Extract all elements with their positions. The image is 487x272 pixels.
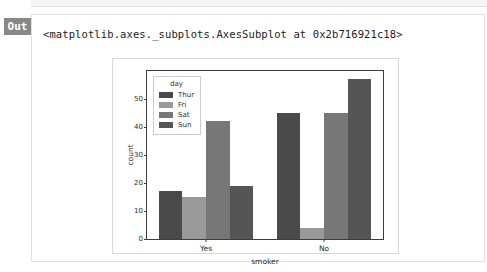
x-axis-label: smoker xyxy=(251,257,279,266)
legend-swatch-icon xyxy=(159,122,173,128)
y-axis-tick-mark xyxy=(144,183,147,184)
x-axis-tick-label: Yes xyxy=(200,244,212,253)
y-axis-tick-mark xyxy=(144,155,147,156)
axes-repr-text: <matplotlib.axes._subplots.AxesSubplot a… xyxy=(43,28,403,40)
legend-swatch-icon xyxy=(159,112,173,118)
bar-yes-sat xyxy=(206,121,230,239)
legend-item-thur: Thur xyxy=(159,90,194,100)
legend-item-sat: Sat xyxy=(159,110,194,120)
x-axis-tick-mark xyxy=(206,239,207,242)
y-axis-tick-label: 50 xyxy=(117,95,147,103)
y-axis-tick-label: 40 xyxy=(117,123,147,131)
y-axis-tick-mark xyxy=(144,211,147,212)
bar-no-sat xyxy=(324,113,348,239)
legend-title: day xyxy=(159,80,194,88)
legend-item-label: Sun xyxy=(178,120,191,130)
plot-axes-frame: 01020304050YesNo count smoker day ThurFr… xyxy=(146,70,384,240)
x-axis-tick-mark xyxy=(324,239,325,242)
y-axis-tick-label: 10 xyxy=(117,207,147,215)
legend-swatch-icon xyxy=(159,102,173,108)
out-prompt-label: Out xyxy=(4,18,31,35)
notebook-output-screen: Out <matplotlib.axes._subplots.AxesSubpl… xyxy=(0,0,487,272)
y-axis-tick-mark xyxy=(144,127,147,128)
legend-item-label: Thur xyxy=(178,90,194,100)
legend-item-label: Sat xyxy=(178,110,189,120)
y-axis-label: count xyxy=(126,144,135,165)
legend-item-label: Fri xyxy=(178,100,186,110)
bar-no-fri xyxy=(300,228,324,239)
chart-legend[interactable]: day ThurFriSatSun xyxy=(153,76,201,135)
output-panel: <matplotlib.axes._subplots.AxesSubplot a… xyxy=(31,14,485,262)
bar-no-thur xyxy=(277,113,301,239)
bar-no-sun xyxy=(348,79,372,239)
y-axis-tick-mark xyxy=(144,239,147,240)
legend-item-fri: Fri xyxy=(159,100,194,110)
output-row: Out <matplotlib.axes._subplots.AxesSubpl… xyxy=(0,14,487,264)
legend-item-sun: Sun xyxy=(159,120,194,130)
matplotlib-figure[interactable]: 01020304050YesNo count smoker day ThurFr… xyxy=(112,58,399,254)
x-axis-tick-label: No xyxy=(319,244,329,253)
bar-yes-fri xyxy=(182,197,206,239)
bar-yes-thur xyxy=(159,191,183,239)
y-axis-tick-mark xyxy=(144,99,147,100)
previous-cell-strip xyxy=(31,0,487,7)
bar-yes-sun xyxy=(230,186,254,239)
y-axis-tick-label: 20 xyxy=(117,179,147,187)
y-axis-tick-label: 0 xyxy=(117,235,147,243)
legend-swatch-icon xyxy=(159,92,173,98)
